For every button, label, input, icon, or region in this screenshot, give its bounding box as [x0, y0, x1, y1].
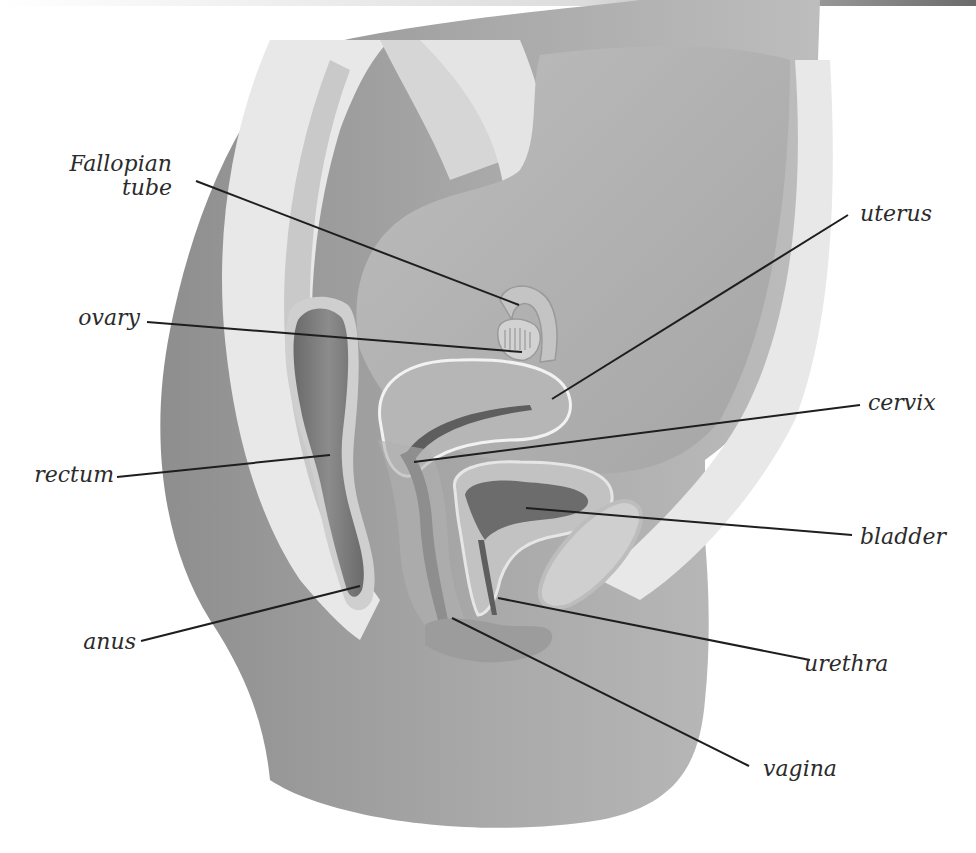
label-anus: anus — [80, 630, 136, 654]
label-rectum: rectum — [34, 463, 114, 487]
label-vagina: vagina — [763, 757, 837, 781]
top-edge-strip — [0, 0, 976, 6]
label-fallopian-tube: Fallopian tube — [62, 152, 172, 200]
pelvis-cross-section-illustration — [0, 0, 976, 853]
label-uterus: uterus — [860, 202, 932, 226]
anatomy-diagram: Fallopian tube ovary rectum anus uterus … — [0, 0, 976, 853]
label-bladder: bladder — [860, 525, 946, 549]
label-ovary: ovary — [78, 306, 140, 330]
label-cervix: cervix — [868, 391, 936, 415]
label-urethra: urethra — [804, 652, 888, 676]
